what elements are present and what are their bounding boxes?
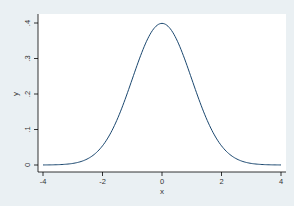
x-tick-label: -4 — [40, 177, 47, 186]
y-tick-label: .1 — [23, 126, 32, 132]
y-axis-label: y — [11, 92, 20, 96]
y-tick-label: .2 — [23, 91, 32, 97]
y-tick-label: .4 — [23, 20, 32, 26]
x-tick-label: 0 — [160, 177, 164, 186]
x-tick-label: -2 — [99, 177, 106, 186]
x-axis-label: x — [160, 187, 164, 196]
plot-area — [38, 14, 286, 172]
x-tick-label: 2 — [219, 177, 223, 186]
y-tick-label: .3 — [23, 55, 32, 61]
y-tick-label: 0 — [23, 163, 32, 167]
chart: -4-2024 0.1.2.3.4 x y — [0, 0, 294, 206]
x-tick-label: 4 — [279, 177, 283, 186]
